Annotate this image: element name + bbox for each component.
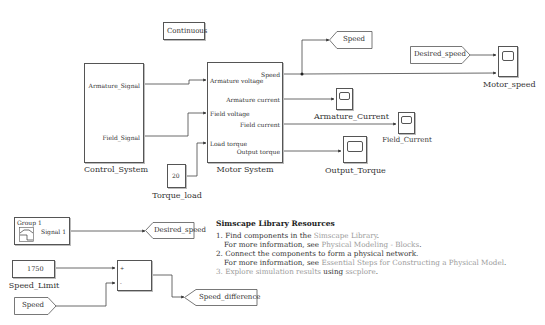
signal-builder-block[interactable]: Group 1 Signal 1 (14, 217, 70, 245)
control-system-block[interactable]: Armature_Signal Field_Signal (84, 63, 144, 163)
scope-screen-icon (401, 116, 412, 124)
physical-modeling-blocks-link[interactable]: Physical Modeling - Blocks (321, 240, 419, 249)
scope-output-torque-block[interactable] (343, 136, 367, 163)
output-torque-port: Output torque (237, 148, 280, 155)
signal-waveform-icon (19, 227, 35, 243)
item-number: 1. (216, 231, 223, 240)
signal-builder-group-title: Group 1 (17, 219, 42, 226)
scope-screen-icon (347, 141, 363, 152)
speed-limit-value: 1750 (27, 265, 44, 273)
control-system-name: Control_System (84, 165, 144, 174)
scope-field-current-name: Field_Current (380, 136, 434, 144)
torque-load-constant-block[interactable]: 20 (167, 164, 186, 188)
motor-system-name: Motor System (207, 165, 283, 174)
torque-load-name: Torque_load (152, 191, 202, 200)
item-text: Connect the components to form a physica… (225, 249, 418, 258)
armature-voltage-port: Armature voltage (210, 77, 263, 84)
item-tail: . (376, 267, 378, 276)
sscplore-link[interactable]: sscplore (345, 267, 375, 276)
annotation-title: Simscape Library Resources (216, 219, 335, 228)
from-speed-tag: Speed (22, 301, 44, 309)
signal-builder-port: Signal 1 (41, 228, 66, 235)
annotation-item-1-more: For more information, see Physical Model… (224, 240, 421, 249)
field-current-port: Field current (240, 121, 280, 128)
explore-results-link[interactable]: Explore simulation results (225, 267, 321, 276)
field-signal-port: Field_Signal (102, 134, 140, 141)
scope-motor-speed-name: Motor_speed (483, 80, 533, 89)
item-number: 3. (216, 267, 223, 276)
annotation-item-2-more: For more information, see Essential Step… (224, 258, 506, 267)
scope-armature-current-name: Armature_Current (314, 112, 376, 121)
sum-plus-sign: + (120, 265, 124, 271)
item-text: For more information, see (224, 240, 321, 249)
goto-speed-difference-tag: Speed_difference (199, 293, 260, 301)
item-text: For more information, see (224, 258, 321, 267)
item-text: Find components in the (225, 231, 314, 240)
simulink-canvas[interactable]: Continuous Armature_Signal Field_Signal … (0, 0, 545, 325)
goto-desired-speed-tag: Desired_speed (154, 226, 206, 234)
annotation-item-2: 2. Connect the components to form a phys… (216, 249, 418, 258)
scope-motor-speed-block[interactable] (498, 46, 518, 77)
continuous-powergui-block[interactable]: Continuous (163, 22, 205, 40)
torque-load-value: 20 (172, 172, 180, 179)
speed-limit-name: Speed_Limit (8, 281, 60, 290)
item-tail: . (504, 258, 506, 267)
goto-speed-tag: Speed (343, 35, 365, 43)
annotation-item-1: 1. Find components in the Simscape Libra… (216, 231, 379, 240)
item-tail: . (419, 240, 421, 249)
speed-port: Speed (261, 71, 280, 78)
armature-signal-port: Armature_Signal (89, 82, 140, 89)
from-desired-speed-tag: Desired_speed (414, 50, 466, 58)
load-torque-port: Load torque (210, 140, 247, 147)
item-number: 2. (216, 249, 223, 258)
scope-field-current-block[interactable] (398, 112, 415, 134)
scope-output-torque-name: Output_Torque (325, 166, 385, 175)
item-text: using (321, 267, 345, 276)
scope-screen-icon (502, 51, 514, 61)
speed-limit-constant-block[interactable]: 1750 (12, 260, 55, 278)
field-voltage-port: Field voltage (210, 110, 250, 117)
motor-system-block[interactable]: Armature voltage Field voltage Load torq… (207, 62, 283, 163)
continuous-label: Continuous (167, 27, 207, 35)
simscape-library-link[interactable]: Simscape Library (314, 231, 377, 240)
scope-screen-icon (339, 92, 350, 100)
essential-steps-link[interactable]: Essential Steps for Constructing a Physi… (321, 258, 504, 267)
armature-current-port: Armature current (226, 96, 280, 103)
sum-block[interactable]: + - (117, 260, 152, 291)
item-tail: . (377, 231, 379, 240)
sum-minus-sign: - (120, 280, 122, 286)
scope-armature-current-block[interactable] (336, 88, 353, 110)
annotation-item-3: 3. Explore simulation results using sscp… (216, 267, 378, 276)
